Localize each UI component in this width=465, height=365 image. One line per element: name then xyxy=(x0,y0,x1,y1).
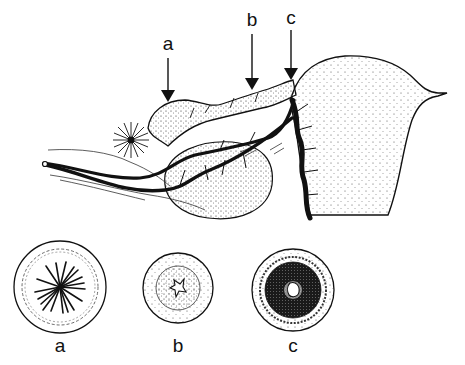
cross-section-label-b: b xyxy=(173,335,184,356)
arrow-c xyxy=(284,30,298,80)
cross-section-b xyxy=(143,253,213,323)
arrow-a xyxy=(161,58,175,102)
cross-section-label-c: c xyxy=(288,335,298,356)
cross-section-c xyxy=(252,249,334,331)
label-a: a xyxy=(163,33,174,54)
ovary xyxy=(165,142,273,219)
cross-section-label-a: a xyxy=(55,335,66,356)
label-c: c xyxy=(286,7,296,28)
label-b: b xyxy=(247,9,258,30)
uterus xyxy=(291,55,447,215)
fallopian-tube-diagram: a b c a b c xyxy=(0,0,465,365)
arrow-b xyxy=(245,34,259,90)
fimbriae xyxy=(113,122,149,158)
cross-section-a xyxy=(14,241,106,333)
